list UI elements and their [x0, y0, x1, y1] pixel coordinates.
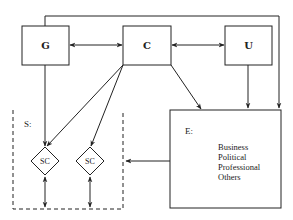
- node-u-label: U: [244, 40, 253, 51]
- node-e-item-political: Political: [218, 152, 247, 162]
- node-g-label: G: [41, 40, 50, 51]
- node-s-label: S:: [24, 119, 32, 129]
- node-sc2-label: SC: [85, 157, 95, 166]
- node-c-label: C: [143, 40, 151, 51]
- node-e-label: E:: [185, 126, 193, 136]
- node-e-item-others: Others: [218, 172, 241, 182]
- edge-c-to-e: [171, 65, 201, 109]
- node-e-item-business: Business: [218, 142, 248, 152]
- node-sc1-label: SC: [40, 157, 50, 166]
- edge-c-to-sc2: [91, 65, 123, 146]
- edge-c-to-sc1: [47, 65, 123, 146]
- node-e-item-professional: Professional: [218, 162, 261, 172]
- diagram-canvas: G C U S: SC SC E: Business Political Pro…: [0, 0, 293, 220]
